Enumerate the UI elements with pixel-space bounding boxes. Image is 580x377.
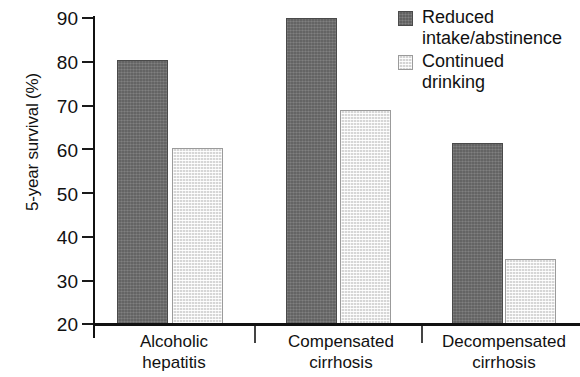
bar-decompensated-cirrhosis-continued [505,259,556,323]
y-tick-label: 50 [30,185,78,204]
y-tick-label: 80 [30,53,78,72]
x-group-label-decompensated-cirrhosis: Decompensated cirrhosis [428,331,580,373]
x-axis-line [93,323,580,326]
x-group-label-line2: cirrhosis [428,352,580,373]
legend-label-continued-drinking: Continued drinking [422,51,504,93]
y-tick-label: 20 [30,315,78,334]
bar-alcoholic-hepatitis-reduced [117,60,168,323]
y-tick-label: 60 [30,141,78,160]
bar-decompensated-cirrhosis-reduced [452,143,503,323]
bar-compensated-cirrhosis-continued [340,110,391,323]
x-group-separator [421,326,423,343]
legend-label-reduced-intake: Reduced intake/abstinence [422,7,562,49]
dark-gray-swatch-icon [398,11,413,26]
x-group-label-alcoholic-hepatitis: Alcoholic hepatitis [110,331,238,373]
x-group-label-line1: Compensated [288,332,394,351]
y-tick-label: 30 [30,272,78,291]
x-group-separator [254,326,256,343]
legend-item-reduced-intake: Reduced intake/abstinence [398,4,580,46]
x-group-label-line2: cirrhosis [266,352,416,373]
legend-label-line1: Reduced [422,7,494,27]
legend: Reduced intake/abstinence Continued drin… [398,4,580,88]
legend-label-line2: drinking [422,72,504,93]
x-group-label-line1: Alcoholic [140,332,208,351]
legend-label-line1: Continued [422,51,504,71]
bar-alcoholic-hepatitis-continued [172,148,223,323]
light-gray-swatch-icon [398,55,413,70]
y-axis-tick-labels: 90 80 70 60 50 40 30 20 [30,0,78,377]
x-group-label-line1: Decompensated [442,332,566,351]
x-group-label-compensated-cirrhosis: Compensated cirrhosis [266,331,416,373]
x-group-label-line2: hepatitis [110,352,238,373]
bar-compensated-cirrhosis-reduced [286,18,337,323]
y-tick-label: 40 [30,228,78,247]
y-tick-label: 90 [30,9,78,28]
bar-chart: 5-year survival (%) 90 80 70 60 50 40 30… [0,0,580,377]
legend-item-continued-drinking: Continued drinking [398,46,580,88]
y-tick-label: 70 [30,97,78,116]
